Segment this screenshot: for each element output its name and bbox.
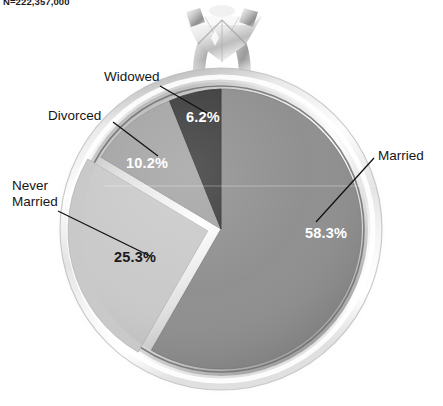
slice-label-divorced: Divorced xyxy=(48,108,101,124)
slice-value-never-married: 25.3% xyxy=(114,249,156,265)
slice-value-widowed: 6.2% xyxy=(186,109,220,125)
slice-label-never-married-line1: Never xyxy=(12,178,58,194)
slice-label-never-married-line2: Married xyxy=(12,194,58,210)
slice-label-widowed: Widowed xyxy=(104,69,160,85)
pie-chart-figure: N=222,357,000 xyxy=(0,0,443,406)
ring-graphic xyxy=(0,0,443,406)
slice-value-divorced: 10.2% xyxy=(126,155,168,171)
slice-value-married: 58.3% xyxy=(305,225,347,241)
slice-label-married: Married xyxy=(378,148,424,164)
ring-and-pie-svg xyxy=(0,0,443,406)
slice-label-never-married: Never Married xyxy=(12,178,58,209)
